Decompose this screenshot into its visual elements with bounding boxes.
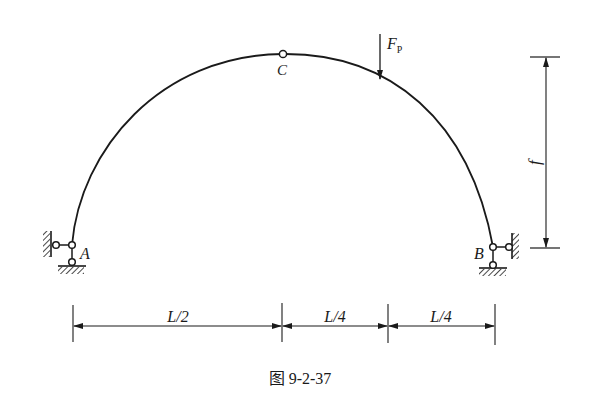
- figure-caption: 图 9-2-37: [269, 370, 332, 387]
- label-a: A: [79, 245, 90, 262]
- three-hinged-arch-diagram: C FP A B f: [0, 0, 600, 418]
- support-b: [479, 233, 519, 276]
- rise-dimension: [530, 57, 560, 248]
- dim-label-3: L/4: [429, 308, 451, 325]
- dim-label-1: L/2: [166, 308, 188, 325]
- label-c: C: [277, 62, 288, 78]
- arch-curve: [72, 54, 493, 247]
- label-rise: f: [525, 158, 544, 165]
- label-load-subscript: P: [397, 44, 403, 55]
- hinge-c: [279, 50, 286, 57]
- label-load: FP: [386, 35, 403, 55]
- dim-label-2: L/4: [323, 308, 345, 325]
- label-b: B: [474, 245, 484, 262]
